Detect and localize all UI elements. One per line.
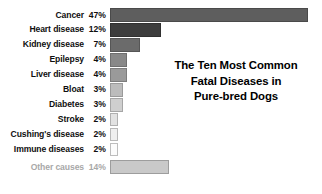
bar-track (110, 128, 322, 142)
chart-title-line: Fatal Diseases in (150, 74, 322, 90)
value-label: 14% (84, 163, 110, 172)
chart-row: Kidney disease7% (0, 38, 322, 52)
category-label: Cushing's disease (0, 130, 84, 139)
bar (110, 8, 308, 22)
bar (110, 83, 123, 97)
category-label: Liver disease (0, 70, 84, 79)
bar-track (110, 23, 322, 37)
value-label: 3% (84, 100, 110, 109)
value-label: 4% (84, 55, 110, 64)
bar-track (110, 143, 322, 157)
chart-title-line: Pure-bred Dogs (150, 89, 322, 105)
value-label: 2% (84, 145, 110, 154)
value-label: 2% (84, 115, 110, 124)
chart-row: Other causes14% (0, 160, 322, 174)
bar (110, 98, 123, 112)
bar (110, 23, 161, 37)
bar-track (110, 113, 322, 127)
bar (110, 160, 169, 174)
chart-row: Cushing's disease2% (0, 128, 322, 142)
value-label: 3% (84, 85, 110, 94)
category-label: Stroke (0, 115, 84, 124)
category-label: Heart disease (0, 25, 84, 34)
bar (110, 128, 118, 142)
category-label: Kidney disease (0, 40, 84, 49)
chart-row: Immune diseases2% (0, 143, 322, 157)
category-label: Cancer (0, 11, 84, 20)
bar-track (110, 160, 322, 174)
value-label: 12% (84, 25, 110, 34)
bar-track (110, 8, 322, 22)
category-label: Epilepsy (0, 55, 84, 64)
chart-row: Cancer47% (0, 8, 322, 22)
chart-row: Stroke2% (0, 113, 322, 127)
chart-figure: Cancer47%Heart disease12%Kidney disease7… (0, 0, 322, 194)
value-label: 4% (84, 70, 110, 79)
value-label: 7% (84, 40, 110, 49)
category-label: Bloat (0, 85, 84, 94)
value-label: 47% (84, 11, 110, 20)
chart-title: The Ten Most CommonFatal Diseases inPure… (150, 58, 322, 105)
bar (110, 68, 127, 82)
category-label: Other causes (0, 163, 84, 172)
chart-title-line: The Ten Most Common (150, 58, 322, 74)
bar (110, 38, 140, 52)
bar (110, 113, 118, 127)
category-label: Diabetes (0, 100, 84, 109)
category-label: Immune diseases (0, 145, 84, 154)
bar (110, 143, 118, 157)
bar (110, 53, 127, 67)
chart-row: Heart disease12% (0, 23, 322, 37)
value-label: 2% (84, 130, 110, 139)
bar-track (110, 38, 322, 52)
